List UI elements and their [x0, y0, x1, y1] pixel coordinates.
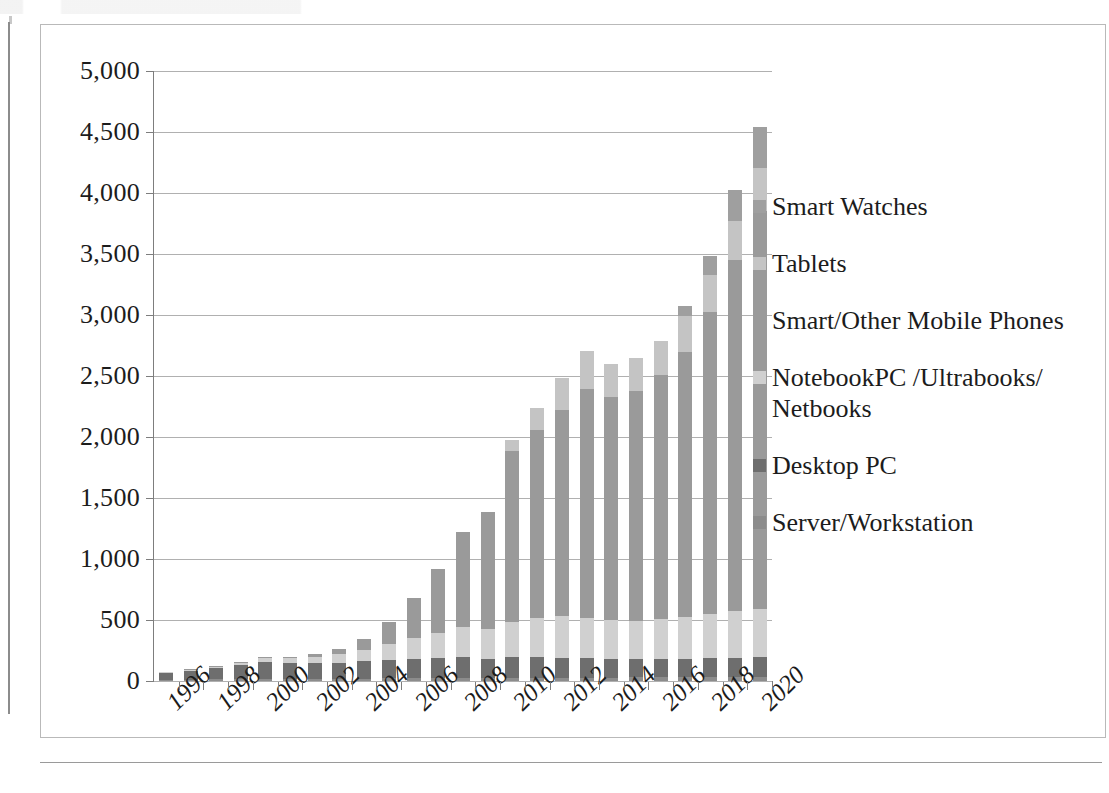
x-tick-mark — [253, 682, 254, 690]
x-tick-mark — [673, 682, 674, 690]
legend-swatch-icon — [753, 200, 766, 213]
x-tick-mark — [228, 682, 229, 690]
legend-item-label: Smart/Other Mobile Phones — [772, 305, 1064, 336]
y-tick-mark — [146, 193, 154, 194]
x-tick-mark — [772, 682, 773, 690]
x-tick-mark — [426, 682, 427, 690]
legend-item[interactable]: NotebookPC /Ultrabooks/ Netbooks — [753, 362, 1083, 424]
legend-item[interactable]: Server/Workstation — [753, 507, 1083, 538]
x-axis-tick-label: 2018 — [706, 662, 759, 715]
y-tick-mark — [146, 559, 154, 560]
x-axis-tick-label: 2004 — [360, 662, 413, 715]
x-axis-tick-label: 2020 — [756, 662, 809, 715]
x-axis-tick-label: 2014 — [607, 662, 660, 715]
y-tick-mark — [146, 315, 154, 316]
x-tick-mark — [698, 682, 699, 690]
x-tick-mark — [278, 682, 279, 690]
legend-item[interactable]: Tablets — [753, 248, 1083, 279]
x-tick-mark — [179, 682, 180, 690]
y-tick-mark — [146, 681, 154, 682]
y-tick-mark — [146, 376, 154, 377]
x-axis-tick-label: 2002 — [311, 662, 364, 715]
x-axis-tick-label: 2006 — [410, 662, 463, 715]
y-tick-mark — [146, 71, 154, 72]
x-tick-mark — [376, 682, 377, 690]
legend-item-label: Smart Watches — [772, 191, 928, 222]
x-tick-mark — [401, 682, 402, 690]
chart-legend: Smart WatchesTabletsSmart/Other Mobile P… — [753, 191, 1083, 564]
x-tick-mark — [648, 682, 649, 690]
x-tick-mark — [475, 682, 476, 690]
legend-swatch-icon — [753, 516, 766, 529]
x-tick-mark — [451, 682, 452, 690]
x-tick-mark — [327, 682, 328, 690]
x-tick-mark — [525, 682, 526, 690]
y-tick-mark — [146, 132, 154, 133]
legend-item-label: NotebookPC /Ultrabooks/ Netbooks — [772, 362, 1043, 424]
x-axis-tick-label: 2010 — [508, 662, 561, 715]
x-tick-mark — [500, 682, 501, 690]
legend-item-label: Server/Workstation — [772, 507, 974, 538]
x-axis-tick-label: 2008 — [459, 662, 512, 715]
page-border-bottom — [40, 762, 1102, 763]
legend-item-label: Desktop PC — [772, 450, 897, 481]
chart-container: 05001,0001,5002,0002,5003,0003,5004,0004… — [40, 24, 1106, 738]
x-axis-tick-label: 1998 — [212, 662, 265, 715]
x-axis-tick-label: 2016 — [657, 662, 710, 715]
legend-swatch-icon — [753, 257, 766, 270]
legend-item[interactable]: Smart/Other Mobile Phones — [753, 305, 1083, 336]
y-tick-mark — [146, 498, 154, 499]
x-tick-mark — [624, 682, 625, 690]
legend-swatch-icon — [753, 371, 766, 384]
y-tick-mark — [146, 620, 154, 621]
x-axis-tick-label: 2012 — [558, 662, 611, 715]
scan-artifact-top — [0, 0, 1109, 14]
legend-swatch-icon — [753, 314, 766, 327]
x-tick-mark — [352, 682, 353, 690]
x-axis-tick-label: 1996 — [162, 662, 215, 715]
page-border-left — [8, 22, 10, 714]
x-tick-mark — [747, 682, 748, 690]
x-tick-mark — [574, 682, 575, 690]
x-tick-mark — [599, 682, 600, 690]
y-tick-mark — [146, 254, 154, 255]
x-tick-mark — [550, 682, 551, 690]
x-tick-mark — [302, 682, 303, 690]
legend-item[interactable]: Desktop PC — [753, 450, 1083, 481]
legend-item-label: Tablets — [772, 248, 847, 279]
legend-item[interactable]: Smart Watches — [753, 191, 1083, 222]
legend-swatch-icon — [753, 459, 766, 472]
x-axis-tick-label: 2000 — [261, 662, 314, 715]
x-tick-mark — [723, 682, 724, 690]
x-tick-mark — [203, 682, 204, 690]
y-tick-mark — [146, 437, 154, 438]
